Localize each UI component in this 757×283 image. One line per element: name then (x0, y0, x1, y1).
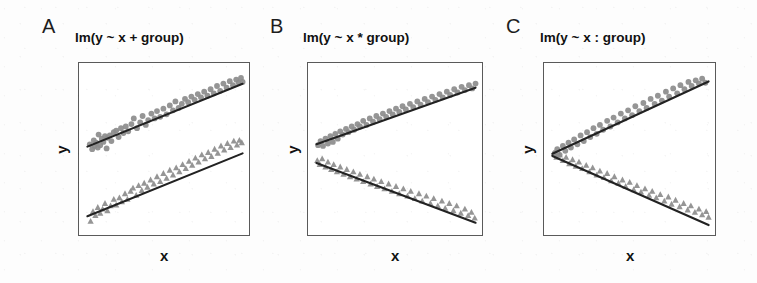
data-point-triangle (583, 162, 589, 168)
data-point-circle (611, 115, 617, 121)
data-point-triangle (634, 182, 640, 188)
data-point-triangle (597, 168, 603, 174)
data-point-triangle (649, 188, 655, 194)
data-point-triangle (696, 206, 702, 212)
data-point-circle (604, 118, 610, 124)
panel-title-c: lm(y ~ x : group) (540, 31, 645, 45)
data-point-triangle (569, 156, 575, 162)
axis-label-y-c: y (520, 145, 535, 153)
data-point-triangle (688, 202, 694, 208)
data-point-triangle (672, 197, 678, 203)
data-point-circle (670, 86, 676, 92)
data-point-triangle (703, 208, 709, 214)
data-point-triangle (642, 185, 648, 191)
plot-frame-c (543, 62, 716, 236)
data-point-triangle (611, 173, 617, 179)
panel-letter-c: C (506, 16, 521, 36)
data-point-circle (655, 93, 661, 99)
data-point-circle (584, 129, 590, 135)
data-point-circle (618, 111, 624, 117)
plot-svg-c (544, 63, 717, 237)
regression-line (552, 81, 708, 153)
data-point-triangle (627, 179, 633, 185)
series-triangle (551, 150, 712, 220)
data-point-triangle (657, 191, 663, 197)
data-point-circle (648, 96, 654, 102)
data-point-circle (625, 107, 631, 113)
data-point-circle (632, 103, 638, 109)
data-point-circle (578, 133, 584, 139)
data-point-circle (640, 100, 646, 106)
data-point-triangle (604, 170, 610, 176)
data-point-circle (571, 137, 577, 143)
data-point-triangle (563, 154, 569, 160)
axis-label-x-c: x (626, 248, 634, 263)
data-point-circle (597, 122, 603, 128)
figure-container: A lm(y ~ x + group) y x B lm(y ~ x * gro… (0, 0, 757, 283)
data-point-circle (591, 125, 597, 131)
data-point-triangle (681, 200, 687, 206)
regression-line (552, 156, 708, 225)
panel-c: C lm(y ~ x : group) y x (0, 0, 757, 283)
data-point-triangle (665, 194, 671, 200)
data-point-triangle (576, 159, 582, 165)
data-point-triangle (619, 177, 625, 183)
data-point-triangle (705, 214, 711, 220)
data-point-circle (663, 89, 669, 95)
data-point-triangle (590, 164, 596, 170)
